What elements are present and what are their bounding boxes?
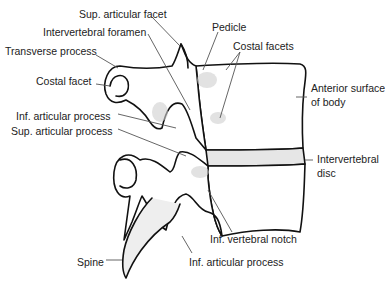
vertebrae-illustration: [0, 0, 385, 285]
label-inf-articular-process-lower: Inf. articular process: [189, 256, 284, 268]
label-costal-facet: Costal facet: [36, 75, 91, 87]
lower-vertebral-body: [208, 164, 305, 236]
lower-vertebral-arch: [114, 152, 222, 240]
label-inf-articular-process-upper: Inf. articular process: [16, 110, 111, 122]
label-intervertebral-disc-line2: disc: [317, 167, 336, 179]
intervertebral-disc: [206, 148, 305, 166]
label-sup-articular-facet: Sup. articular facet: [79, 8, 167, 20]
label-pedicle: Pedicle: [212, 21, 246, 33]
label-anterior-surface-line2: of body: [311, 96, 345, 108]
label-transverse-process: Transverse process: [5, 45, 97, 57]
label-intervertebral-foramen: Intervertebral foramen: [43, 26, 146, 38]
label-anterior-surface-line1: Anterior surface: [311, 82, 385, 94]
label-costal-facets: Costal facets: [233, 40, 294, 52]
label-intervertebral-disc-line1: Intervertebral: [317, 153, 379, 165]
label-spine: Spine: [77, 256, 104, 268]
label-sup-articular-process: Sup. articular process: [11, 125, 113, 137]
label-inf-vertebral-notch: Inf. vertebral notch: [210, 233, 297, 245]
